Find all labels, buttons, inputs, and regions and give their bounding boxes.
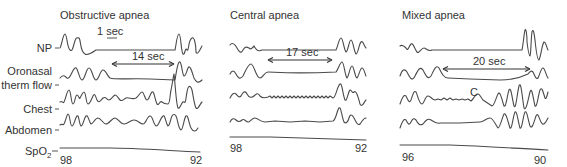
spo2-end-central: 92 xyxy=(355,142,367,154)
title-central: Central apnea xyxy=(230,9,300,21)
duration-label-mixed: 20 sec xyxy=(473,55,506,67)
title-mixed: Mixed apnea xyxy=(402,9,466,21)
label-oronasal: Oronasal xyxy=(7,65,52,77)
spo2-start-obstructive: 98 xyxy=(60,154,72,166)
label-chest: Chest xyxy=(23,103,52,115)
trace-spo2-obstructive xyxy=(60,148,200,152)
trace-spo2-mixed xyxy=(400,145,548,150)
duration-label-obstructive: 14 sec xyxy=(132,50,165,62)
apnea-diagram: NP Oronasal therm flow Chest Abdomen SpO… xyxy=(0,0,567,167)
label-np: NP xyxy=(37,42,52,54)
trace-spo2-central xyxy=(230,137,366,140)
title-obstructive: Obstructive apnea xyxy=(60,9,150,21)
trace-chest-central xyxy=(230,84,366,106)
scale-bar-label: 1 sec xyxy=(97,25,124,37)
panel-central: 98 92 17 sec xyxy=(230,38,367,154)
duration-label-central: 17 sec xyxy=(286,46,319,58)
label-spo2-subscript: 2 xyxy=(47,151,52,160)
label-spo2: SpO xyxy=(25,145,47,157)
trace-abdomen-mixed xyxy=(400,112,548,128)
trace-abdomen-obstructive xyxy=(60,114,198,131)
label-therm-flow: therm flow xyxy=(1,79,52,91)
spo2-start-mixed: 96 xyxy=(402,151,414,163)
annotation-c: C xyxy=(470,86,478,98)
trace-np-obstructive xyxy=(60,34,202,55)
spo2-end-obstructive: 92 xyxy=(190,154,202,166)
panel-mixed: C 96 90 20 sec xyxy=(400,30,548,166)
spo2-end-mixed: 90 xyxy=(534,154,546,166)
label-abdomen: Abdomen xyxy=(5,124,52,136)
trace-oronasal-central xyxy=(230,62,366,78)
panel-obstructive: 98 92 14 sec xyxy=(60,34,202,166)
trace-oronasal-obstructive xyxy=(60,62,202,82)
spo2-start-central: 98 xyxy=(230,142,242,154)
trace-abdomen-central xyxy=(230,108,366,125)
